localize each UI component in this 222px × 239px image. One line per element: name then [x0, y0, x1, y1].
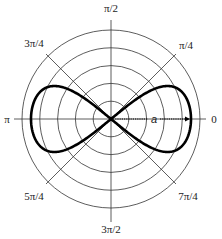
angle-label-pi2: π/2 — [104, 2, 118, 14]
angle-label-pi: π — [4, 113, 10, 125]
angle-label-7pi4: 7π/4 — [178, 190, 198, 202]
parameter-a-label: a — [151, 113, 157, 125]
angle-label-pi4: π/4 — [179, 39, 194, 51]
polar-plot: 0π/4π/23π/4π5π/43π/27π/4 a — [0, 0, 222, 239]
angle-label-0: 0 — [211, 113, 217, 125]
parameter-a-annotation: a — [113, 113, 190, 125]
arrowhead-icon — [185, 117, 190, 122]
angle-label-3pi2: 3π/2 — [101, 223, 121, 235]
angle-label-5pi4: 5π/4 — [24, 190, 44, 202]
angle-label-3pi4: 3π/4 — [24, 37, 44, 49]
